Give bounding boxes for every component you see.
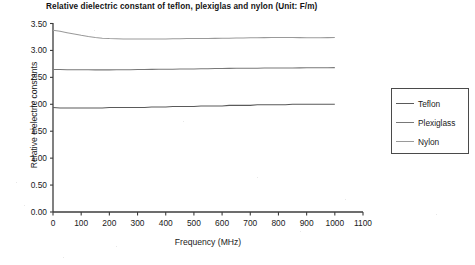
x-tick-label: 700 xyxy=(243,218,257,228)
legend-item-nylon[interactable]: Nylon xyxy=(392,132,468,151)
x-tick-label: 100 xyxy=(74,218,88,228)
legend-item-label: Teflon xyxy=(418,99,440,109)
legend-line-swatch xyxy=(396,141,414,142)
legend-item-teflon[interactable]: Teflon xyxy=(392,94,468,113)
legend-line-swatch xyxy=(396,103,414,104)
y-tick-label: 0.50 xyxy=(31,180,48,190)
x-tick-label: 0 xyxy=(51,218,56,228)
scan-artifact xyxy=(345,199,346,200)
scan-artifact xyxy=(183,121,184,122)
data-series-group xyxy=(53,30,335,108)
scan-artifact xyxy=(116,246,117,247)
legend-item-label: Plexiglass xyxy=(418,118,455,128)
scan-artifact xyxy=(94,30,95,31)
scan-artifact xyxy=(63,257,64,258)
x-tick-label: 400 xyxy=(159,218,173,228)
series-line-plexiglass xyxy=(53,68,335,70)
x-tick-label: 1000 xyxy=(325,218,344,228)
y-tick-label: 1.00 xyxy=(31,153,48,163)
y-tick-label: 2.50 xyxy=(31,72,48,82)
x-tick-label: 1100 xyxy=(354,218,372,228)
legend-item-label: Nylon xyxy=(418,137,439,147)
scan-artifact xyxy=(257,177,258,178)
y-tick-label: 2.00 xyxy=(31,99,48,109)
legend: TeflonPlexiglassNylon xyxy=(391,88,469,154)
series-line-nylon xyxy=(53,30,335,39)
legend-line-swatch xyxy=(396,122,414,123)
scan-artifact xyxy=(24,205,25,206)
y-tick-group: 0.000.501.001.502.002.503.003.50 xyxy=(31,19,53,218)
legend-item-plexiglass[interactable]: Plexiglass xyxy=(392,113,468,132)
x-tick-label: 200 xyxy=(102,218,116,228)
scan-artifact xyxy=(16,182,17,183)
x-tick-label: 900 xyxy=(300,218,314,228)
x-tick-label: 500 xyxy=(187,218,201,228)
x-tick-label: 800 xyxy=(271,218,285,228)
x-tick-label: 600 xyxy=(215,218,229,228)
y-tick-label: 0.00 xyxy=(31,207,48,217)
series-line-teflon xyxy=(53,104,335,108)
x-tick-group: 010020030040050060070080090010001100 xyxy=(51,212,373,228)
x-tick-label: 300 xyxy=(131,218,145,228)
scan-artifact xyxy=(300,231,301,232)
y-tick-label: 3.00 xyxy=(31,45,48,55)
scan-artifact xyxy=(436,214,437,215)
y-tick-label: 1.50 xyxy=(31,126,48,136)
y-tick-label: 3.50 xyxy=(31,19,48,29)
chart-figure: Relative dielectric constant of teflon, … xyxy=(0,0,475,265)
